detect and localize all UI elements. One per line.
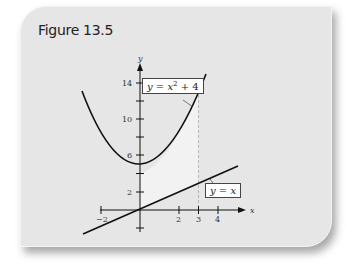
x-tick-label: −2 <box>96 215 108 224</box>
y-axis-label: y <box>137 54 143 63</box>
curve-label-text: y = x <box>147 81 173 92</box>
curve-label-leader <box>183 100 193 107</box>
curve-label-box: y = x2 + 4 <box>142 78 204 94</box>
x-tick-label: 2 <box>176 215 181 224</box>
x-axis-arrow <box>238 207 246 213</box>
y-tick-label: 14 <box>122 79 132 88</box>
y-tick-label: 6 <box>127 151 132 160</box>
line-label-text: y = x <box>210 185 236 196</box>
y-tick-label: 2 <box>127 188 132 197</box>
line-label-box: y = x <box>205 183 241 198</box>
x-axis-label: x <box>250 206 255 215</box>
x-tick-label: 3 <box>196 215 201 224</box>
y-axis-arrow <box>137 63 143 71</box>
curve-label-suffix: + 4 <box>178 81 199 92</box>
x-tick-label: 4 <box>215 215 220 224</box>
shaded-region <box>140 92 199 210</box>
y-tick-label: 10 <box>122 115 132 124</box>
chart-area: −2 2 3 4 2 6 10 14 x y <box>0 0 346 273</box>
